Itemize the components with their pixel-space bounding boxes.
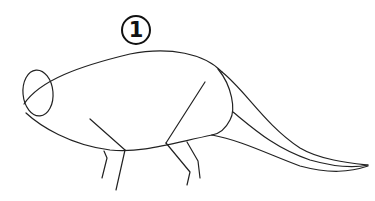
hind-leg-upper (166, 82, 205, 143)
hind-leg-back (166, 143, 190, 185)
dinosaur-sketch (0, 0, 375, 201)
head-circle (21, 69, 55, 117)
front-leg-back (116, 150, 125, 190)
body-top-outline (24, 51, 222, 104)
tail-upper-outline (222, 72, 368, 165)
hind-leg-front (187, 142, 200, 178)
front-leg-upper (90, 119, 125, 150)
tail-middle-line (233, 112, 368, 167)
front-leg-front (102, 151, 107, 178)
